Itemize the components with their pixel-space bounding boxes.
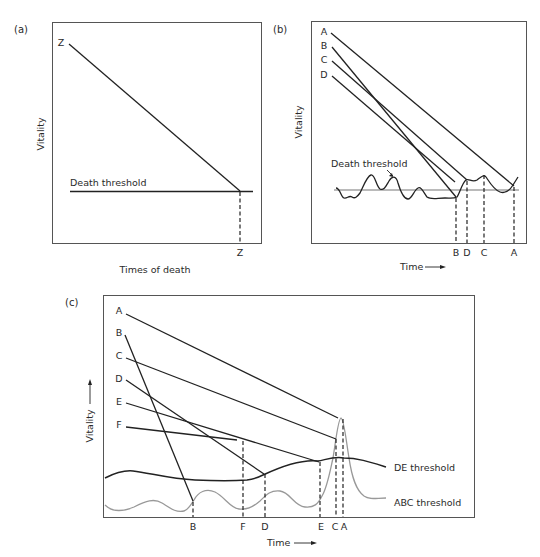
wavy-death-threshold xyxy=(336,175,518,199)
panel-b-y-axis-label: Vitality xyxy=(293,105,304,138)
de-threshold-label: DE threshold xyxy=(394,462,455,473)
panel-b-frame xyxy=(312,22,527,244)
arrow-up-icon xyxy=(88,379,92,385)
vitality-line-d xyxy=(126,380,264,474)
panel-a: (a) Vitality Z Death threshold Z Times o… xyxy=(14,23,262,276)
line-a-end-label: A xyxy=(341,521,348,532)
panel-c-x-axis-label: Time xyxy=(266,537,290,548)
panel-c-y-axis-label: Vitality xyxy=(84,409,95,442)
vitality-line-e xyxy=(126,403,319,462)
line-d-end-label: D xyxy=(261,521,268,532)
line-f-end-label: F xyxy=(240,521,245,532)
abc-threshold-curve xyxy=(105,418,386,511)
arrow-right-icon xyxy=(311,541,317,545)
line-c-end-label: C xyxy=(332,521,339,532)
line-e-start-label: E xyxy=(116,396,122,407)
death-threshold-label: Death threshold xyxy=(331,158,408,169)
line-d-start-label: D xyxy=(320,69,327,80)
panel-c: (c) Vitality A B C D E F B F D xyxy=(65,296,475,549)
panel-a-label: (a) xyxy=(14,24,28,35)
line-c-start-label: C xyxy=(321,54,328,65)
vitality-line-c xyxy=(126,358,336,439)
arrow-right-icon xyxy=(440,265,446,269)
vitality-line-z xyxy=(69,44,240,191)
vitality-line-f xyxy=(126,427,237,440)
line-d-end-label: D xyxy=(463,247,470,258)
line-b-end-label: B xyxy=(190,521,197,532)
line-e-end-label: E xyxy=(318,521,324,532)
line-z-end-label: Z xyxy=(237,247,244,258)
line-a-start-label: A xyxy=(321,26,328,37)
line-z-start-label: Z xyxy=(58,37,65,48)
line-b-end-label: B xyxy=(453,247,460,258)
panel-b-x-axis-label: Time xyxy=(399,261,423,272)
panel-c-label: (c) xyxy=(65,297,78,308)
line-a-end-label: A xyxy=(511,247,518,258)
line-d-start-label: D xyxy=(115,373,122,384)
line-f-start-label: F xyxy=(116,419,121,430)
death-threshold-label: Death threshold xyxy=(70,177,147,188)
abc-threshold-label: ABC threshold xyxy=(394,497,461,508)
line-b-start-label: B xyxy=(116,327,123,338)
panel-a-frame xyxy=(53,23,262,244)
vitality-threshold-diagram: (a) Vitality Z Death threshold Z Times o… xyxy=(0,0,540,557)
panel-b: (b) Vitality A B C D Death threshold B D… xyxy=(273,22,527,273)
line-b-start-label: B xyxy=(321,40,328,51)
line-a-start-label: A xyxy=(116,305,123,316)
panel-a-x-axis-label: Times of death xyxy=(119,264,191,275)
panel-a-y-axis-label: Vitality xyxy=(35,117,46,150)
panel-b-label: (b) xyxy=(273,24,287,35)
line-c-start-label: C xyxy=(116,350,123,361)
panel-c-frame xyxy=(104,296,475,518)
line-c-end-label: C xyxy=(481,247,488,258)
